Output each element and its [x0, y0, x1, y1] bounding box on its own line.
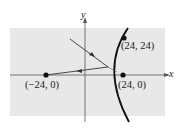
point-on-curve-label: (24, 24)	[121, 40, 154, 51]
x-axis-label: x	[169, 68, 173, 79]
diagram-canvas	[0, 0, 177, 130]
y-axis-label: y	[81, 9, 85, 20]
focus-right-dot	[120, 72, 125, 77]
focus-left-dot	[43, 72, 48, 77]
focus-left-label: (−24, 0)	[25, 79, 59, 90]
focus-right-label: (24, 0)	[118, 79, 146, 90]
